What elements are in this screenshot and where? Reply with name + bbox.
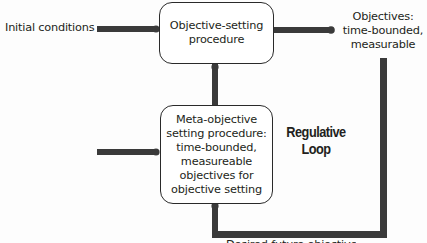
loop-bottom-line <box>212 231 387 238</box>
bottom-label-text: Desired future objectives <box>226 238 356 243</box>
meta-objective-line: measureable <box>166 155 266 169</box>
meta-objective-box[interactable]: Meta-objective setting procedure: time-b… <box>160 105 273 204</box>
meta-objective-line: setting procedure: <box>166 127 266 141</box>
regulative-loop-label: Regulative Loop <box>281 124 351 158</box>
meta-objective-line: objective setting <box>166 183 266 197</box>
arrow-dot <box>211 63 218 70</box>
meta-objective-line: objectives for <box>166 169 266 183</box>
loop-right-line <box>380 58 387 238</box>
meta-objective-line: Meta-objective <box>166 113 266 127</box>
objectives-line: measurable <box>339 38 427 52</box>
loop-label-line: Regulative <box>281 124 351 141</box>
arrow-dot <box>152 148 159 155</box>
meta-input-arrow <box>97 149 157 155</box>
objectives-output-line <box>273 27 331 33</box>
objectives-label: Objectives: time-bounded, measurable <box>339 10 427 52</box>
initial-conditions-arrow <box>97 26 157 32</box>
bottom-label-clipped: Desired future objectives <box>226 238 356 243</box>
arrow-dot <box>327 26 335 34</box>
initial-conditions-label: Initial conditions <box>5 21 94 35</box>
objective-setting-line: Objective-setting <box>170 19 263 33</box>
objective-setting-box[interactable]: Objective-setting procedure <box>159 2 274 64</box>
meta-objective-line: time-bounded, <box>166 141 266 155</box>
objectives-line: time-bounded, <box>339 24 427 38</box>
loop-label-line: Loop <box>281 141 351 158</box>
objectives-line: Objectives: <box>339 10 427 24</box>
objective-setting-line: procedure <box>170 33 263 47</box>
